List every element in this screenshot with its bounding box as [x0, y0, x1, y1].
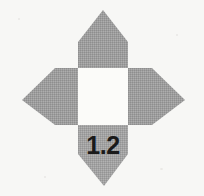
scan-speck	[18, 18, 20, 20]
scan-speck	[44, 176, 46, 178]
center-square	[78, 68, 128, 125]
figure-label: 1.2	[86, 131, 119, 159]
scan-speck	[160, 168, 163, 170]
figure-canvas: 1.2	[0, 0, 204, 196]
scan-speck	[176, 34, 178, 36]
rosette-diagram: 1.2	[0, 0, 204, 196]
